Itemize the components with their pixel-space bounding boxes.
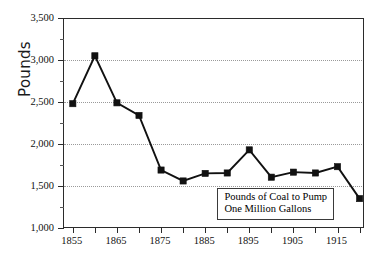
x-axis-tick-label: 1885: [184, 235, 224, 246]
y-axis-tick-label: 3,000: [12, 55, 54, 65]
data-point-marker: [158, 167, 164, 173]
x-axis-tick: [271, 228, 272, 233]
y-axis-tick-label: 1,500: [12, 181, 54, 191]
y-axis-tick-label: 2,000: [12, 139, 54, 149]
y-axis-tick-label: 2,500: [12, 97, 54, 107]
x-axis-tick-label: 1865: [96, 235, 136, 246]
y-axis-title: Pounds: [16, 14, 34, 124]
data-point-marker: [224, 170, 230, 176]
legend-box: Pounds of Coal to PumpOne Million Gallon…: [217, 188, 334, 220]
data-point-marker: [92, 53, 98, 59]
x-axis-tick: [73, 228, 74, 233]
data-point-marker: [334, 164, 340, 170]
data-point-marker: [246, 147, 252, 153]
data-point-marker: [70, 101, 76, 107]
plot-border-right: [363, 18, 364, 228]
x-axis-tick: [293, 228, 294, 233]
data-point-marker: [114, 100, 120, 106]
x-axis-tick: [95, 228, 96, 233]
x-axis-tick-label: 1855: [52, 235, 92, 246]
data-point-marker: [312, 170, 318, 176]
x-axis-tick: [338, 228, 339, 233]
x-axis-tick: [227, 228, 228, 233]
series-line: [73, 56, 360, 199]
x-axis-tick: [183, 228, 184, 233]
chart-container: Pounds 1,0001,5002,0002,5003,0003,500185…: [0, 0, 382, 262]
legend-line-2: One Million Gallons: [224, 203, 327, 216]
legend-line-1: Pounds of Coal to Pump: [224, 191, 327, 204]
x-axis-tick-label: 1905: [272, 235, 312, 246]
x-axis-tick: [249, 228, 250, 233]
y-axis-tick-label: 3,500: [12, 13, 54, 23]
y-axis-tick-label: 1,000: [12, 223, 54, 233]
x-axis-tick: [315, 228, 316, 233]
x-axis-tick-label: 1915: [317, 235, 357, 246]
y-axis-tick-major: [58, 228, 64, 229]
x-axis-tick: [161, 228, 162, 233]
x-axis-tick-label: 1895: [228, 235, 268, 246]
data-point-marker: [290, 169, 296, 175]
data-point-marker: [268, 174, 274, 180]
x-axis-tick: [117, 228, 118, 233]
x-axis-tick-label: 1875: [140, 235, 180, 246]
x-axis-tick: [139, 228, 140, 233]
x-axis-tick: [360, 228, 361, 233]
data-point-marker: [202, 170, 208, 176]
x-axis-tick: [205, 228, 206, 233]
data-point-marker: [356, 196, 362, 202]
data-point-marker: [136, 112, 142, 118]
data-point-marker: [180, 178, 186, 184]
plot-border-top: [63, 18, 363, 19]
